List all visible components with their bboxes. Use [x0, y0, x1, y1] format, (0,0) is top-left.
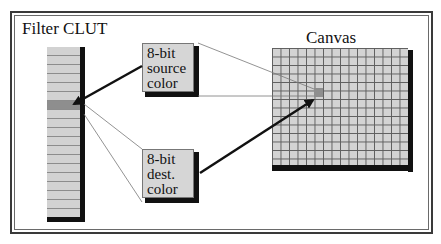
source-color-box: 8-bit source color: [142, 43, 198, 95]
clut-shadow: [47, 217, 85, 222]
source-color-label: 8-bit source color: [147, 46, 186, 91]
canvas-pixels: [272, 48, 408, 165]
clut-shadow: [80, 47, 85, 222]
canvas-title: Canvas: [306, 28, 356, 48]
clut-entries: [47, 47, 80, 217]
canvas-shadow: [408, 50, 413, 172]
dest-color-label: 8-bit dest. color: [147, 152, 178, 197]
filter-clut: [47, 47, 82, 219]
canvas-highlight-pixel: [314, 88, 323, 97]
dest-color-box: 8-bit dest. color: [142, 149, 198, 201]
clut-title: Filter CLUT: [22, 19, 107, 39]
clut-highlight-entry: [47, 101, 80, 109]
canvas-shadow: [272, 165, 413, 171]
canvas-grid: [272, 48, 412, 173]
